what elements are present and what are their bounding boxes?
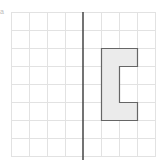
reflection-grid-diagram bbox=[0, 0, 162, 163]
